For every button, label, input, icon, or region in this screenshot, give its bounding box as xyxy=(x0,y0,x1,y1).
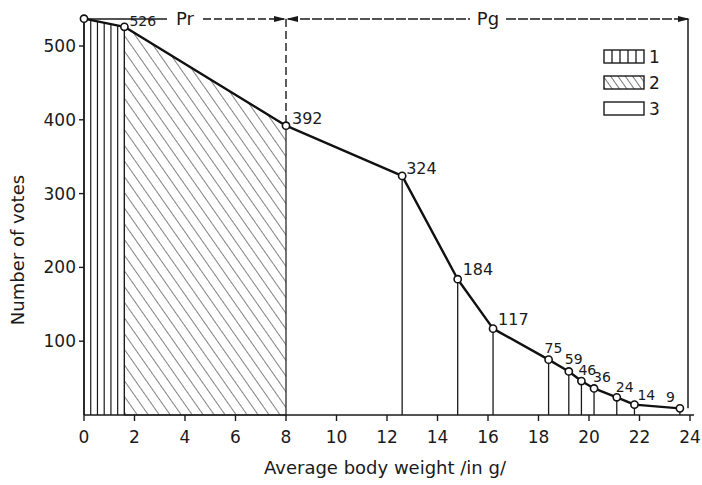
data-label: 24 xyxy=(616,379,634,395)
data-point-marker xyxy=(80,15,87,22)
legend-item-2: 2 xyxy=(604,73,660,93)
y-tick-label: 500 xyxy=(44,36,76,56)
legend-swatch-hatch-icon xyxy=(604,76,644,89)
x-tick-label: 0 xyxy=(79,427,90,447)
data-point-marker xyxy=(399,172,406,179)
x-tick-label: 6 xyxy=(230,427,241,447)
pr-arrow-icon xyxy=(274,16,286,22)
legend-item-1: 1 xyxy=(604,47,660,67)
x-tick-label: 18 xyxy=(528,427,550,447)
data-label: 184 xyxy=(463,260,494,279)
legend-item-3: 3 xyxy=(604,99,660,119)
data-label: 117 xyxy=(498,310,529,329)
x-tick-label: 24 xyxy=(679,427,701,447)
legend: 123 xyxy=(604,47,660,119)
x-tick-label: 10 xyxy=(326,427,348,447)
data-point-marker xyxy=(590,385,597,392)
x-tick-label: 8 xyxy=(281,427,292,447)
x-tick-label: 12 xyxy=(376,427,398,447)
x-tick-label: 20 xyxy=(578,427,600,447)
legend-label: 1 xyxy=(649,47,660,67)
legend-label: 2 xyxy=(649,73,660,93)
data-label: 392 xyxy=(292,109,323,128)
x-tick-label: 16 xyxy=(477,427,499,447)
data-point-marker xyxy=(565,368,572,375)
data-point-marker xyxy=(676,405,683,412)
drop-lines-layer xyxy=(402,176,680,415)
x-tick-label: 2 xyxy=(129,427,140,447)
data-point-marker xyxy=(121,23,128,30)
legend-swatch-vertical-lines-icon xyxy=(604,50,644,63)
data-point-marker xyxy=(282,122,289,129)
x-axis-label: Average body weight /in g/ xyxy=(264,457,507,478)
data-label: 526 xyxy=(129,13,156,29)
pg-annotation: Pg xyxy=(477,8,499,29)
data-label: 75 xyxy=(545,340,563,356)
data-label: 36 xyxy=(593,369,611,385)
y-tick-label: 200 xyxy=(44,257,76,277)
data-point-marker xyxy=(545,356,552,363)
legend-label: 3 xyxy=(649,99,660,119)
y-tick-label: 300 xyxy=(44,184,76,204)
line-chart: 024681012141618202224100200300400500 PrP… xyxy=(0,0,702,485)
data-label: 324 xyxy=(406,159,437,178)
x-tick-label: 22 xyxy=(629,427,651,447)
x-tick-label: 4 xyxy=(180,427,191,447)
pr-annotation: Pr xyxy=(176,8,195,29)
y-tick-label: 100 xyxy=(44,331,76,351)
data-label: 14 xyxy=(637,387,655,403)
data-point-marker xyxy=(454,276,461,283)
region-2-hatched xyxy=(124,27,286,415)
x-tick-label: 14 xyxy=(427,427,449,447)
pg-arrow-left-icon xyxy=(286,16,298,22)
data-label: 9 xyxy=(666,389,675,405)
regions-layer xyxy=(84,19,286,415)
legend-swatch-empty-icon xyxy=(604,102,644,115)
data-point-marker xyxy=(489,325,496,332)
y-axis-label: Number of votes xyxy=(7,175,28,325)
data-point-marker xyxy=(578,377,585,384)
y-tick-label: 400 xyxy=(44,110,76,130)
